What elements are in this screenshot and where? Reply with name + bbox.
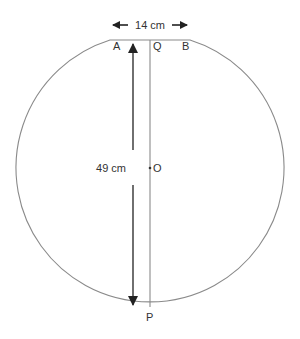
height-label: 49 cm xyxy=(96,162,126,174)
circle-diagram: 14 cm 49 cm A Q B O P xyxy=(0,0,300,339)
width-label: 14 cm xyxy=(135,19,165,31)
point-A: A xyxy=(113,40,121,52)
center-dot xyxy=(149,167,152,170)
point-P: P xyxy=(146,311,153,323)
point-O: O xyxy=(153,162,162,174)
point-B: B xyxy=(182,40,189,52)
point-Q: Q xyxy=(153,40,162,52)
